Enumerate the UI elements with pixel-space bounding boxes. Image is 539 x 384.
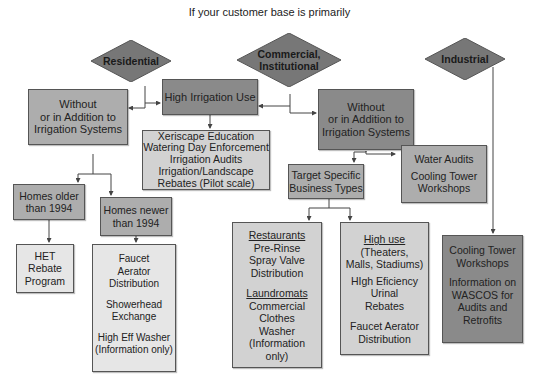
wascos-line: Audits and: [458, 301, 508, 314]
het-line: HET: [35, 250, 56, 263]
target-line: Business Types: [289, 182, 362, 195]
faucet-aerator-line: Distribution: [358, 333, 411, 346]
faucet-line: Aerator: [118, 266, 151, 279]
washer-line: High Eff Washer: [98, 332, 170, 345]
xeriscape-line: Irrigation/Landscape: [158, 166, 253, 178]
xeriscape-programs-box: Xeriscape Education Watering Day Enforce…: [142, 130, 270, 190]
industrial-line: Workshops: [456, 257, 508, 270]
het-rebate-box: HET Rebate Program: [16, 244, 74, 293]
industrial-label: Industrial: [441, 53, 488, 65]
industrial-diamond: Industrial: [425, 38, 505, 80]
urinal-line: HIgh Eficiency: [351, 275, 418, 288]
urinal-line: Rebates: [365, 300, 404, 313]
residential-without-irrigation-box: Without or in Addition to Irrigation Sys…: [28, 89, 128, 145]
faucet-line: Faucet: [119, 253, 150, 266]
high-use-box: High use (Theaters, Malls, Stadiums) HIg…: [340, 222, 429, 355]
com-without-line: Without: [347, 101, 384, 114]
restaurants-line: Spray Valve: [249, 254, 305, 267]
wascos-line: WASCOS for: [452, 289, 513, 302]
laundromats-line: Washer: [259, 325, 295, 338]
laundromats-line: only): [266, 350, 289, 363]
faucet-aerator-box: Faucet Aerator Distribution Showerhead E…: [92, 244, 176, 372]
restaurants-line: Distribution: [251, 267, 304, 280]
com-without-line: Irrigation Systems: [322, 126, 410, 139]
showerhead-line: Exchange: [112, 311, 156, 324]
faucet-line: Distribution: [109, 278, 159, 291]
washer-line: (Information only): [95, 344, 173, 357]
res-without-line: Without: [59, 98, 96, 111]
target-line: Target Specific: [292, 169, 361, 182]
het-line: Program: [25, 275, 65, 288]
xeriscape-line: Rebates (Pilot scale): [158, 178, 255, 190]
target-specific-business-box: Target Specific Business Types: [288, 164, 364, 199]
laundromats-line: Clothes: [259, 312, 295, 325]
res-without-line: or in Addition to: [40, 111, 116, 124]
high-use-line: Malls, Stadiums): [346, 258, 424, 271]
homes-older-line: Homes older: [19, 190, 79, 203]
high-irrigation-use-box: High Irrigation Use: [162, 79, 258, 115]
water-audits-box: Water Audits Cooling Tower Workshops: [401, 145, 487, 203]
industrial-line: Cooling Tower: [449, 244, 515, 257]
residential-label: Residential: [103, 55, 159, 67]
high-irrigation-label: High Irrigation Use: [164, 91, 255, 104]
restaurants-line: Pre-Rinse: [254, 242, 301, 255]
homes-older-box: Homes older than 1994: [13, 184, 85, 220]
homes-older-line: than 1994: [26, 202, 73, 215]
water-audits-line: Water Audits: [414, 153, 473, 166]
res-without-line: Irrigation Systems: [34, 123, 122, 136]
laundromats-line: Commercial: [249, 300, 305, 313]
wascos-line: Retrofits: [463, 314, 502, 327]
restaurants-heading: Restaurants: [249, 229, 306, 242]
commercial-label-line2: Institutional: [259, 60, 319, 72]
showerhead-line: Showerhead: [106, 299, 162, 312]
faucet-aerator-line: Faucet Aerator: [350, 320, 419, 333]
high-use-line: (Theaters,: [361, 246, 409, 259]
residential-diamond: Residential: [91, 40, 171, 82]
com-without-line: or in Addition to: [328, 113, 404, 126]
homes-newer-line: than 1994: [113, 217, 160, 230]
high-use-heading: High use: [364, 233, 405, 246]
homes-newer-line: Homes newer: [104, 204, 169, 217]
commercial-without-irrigation-box: Without or in Addition to Irrigation Sys…: [318, 89, 414, 150]
laundromats-heading: Laundromats: [246, 287, 307, 300]
laundromats-line: (Information: [249, 337, 305, 350]
industrial-programs-box: Cooling Tower Workshops Information on W…: [442, 235, 523, 343]
restaurants-laundromats-box: Restaurants Pre-Rinse Spray Valve Distri…: [232, 222, 322, 368]
homes-newer-box: Homes newer than 1994: [100, 197, 172, 236]
wascos-line: Information on: [449, 276, 516, 289]
cooling-tower-line: Workshops: [418, 182, 470, 195]
commercial-label-line1: Commercial,: [257, 48, 320, 60]
het-line: Rebate: [28, 262, 62, 275]
urinal-line: Urinal: [371, 287, 398, 300]
cooling-tower-line: Cooling Tower: [411, 170, 477, 183]
